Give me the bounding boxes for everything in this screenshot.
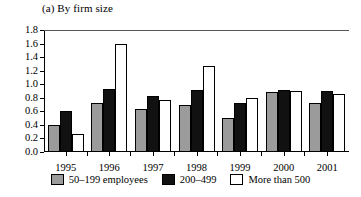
y-axis-tick-label: 0.6 <box>25 104 38 117</box>
bar[interactable] <box>203 66 215 152</box>
x-axis-tick-label: 1997 <box>142 162 163 173</box>
bar[interactable] <box>135 109 147 152</box>
x-axis-tick-mark <box>109 152 110 156</box>
bar[interactable] <box>191 90 203 152</box>
x-axis-tick-mark <box>284 152 285 156</box>
bar[interactable] <box>179 105 191 152</box>
y-axis-tick-label: 1.4 <box>25 50 38 63</box>
bar[interactable] <box>147 96 159 152</box>
y-axis-tick-label: 0.2 <box>25 131 38 144</box>
x-axis-tick-label: 2001 <box>317 162 338 173</box>
plot-area: 0.00.20.40.60.81.01.21.41.61.8 199519961… <box>44 30 349 152</box>
bar[interactable] <box>333 94 345 152</box>
x-axis-tick-mark <box>197 152 198 156</box>
bar-group: 1995 <box>44 30 88 152</box>
x-axis-tick-mark <box>153 152 154 156</box>
bar-groups: 1995199619971998199920002001 <box>44 30 349 152</box>
bar-group: 2000 <box>262 30 306 152</box>
bar-group: 1997 <box>131 30 175 152</box>
bar[interactable] <box>278 90 290 152</box>
bar[interactable] <box>72 134 84 152</box>
legend-item[interactable]: 200–499 <box>162 174 217 185</box>
bar[interactable] <box>246 98 258 152</box>
x-axis-tick-mark <box>327 152 328 156</box>
x-axis-tick-mark <box>240 152 241 156</box>
x-axis-tick-mark <box>66 152 67 156</box>
legend-swatch <box>162 174 175 185</box>
y-axis-tick-label: 1.2 <box>25 64 38 77</box>
bar[interactable] <box>309 103 321 152</box>
x-axis-tick-label: 1999 <box>230 162 251 173</box>
bar-group: 1999 <box>218 30 262 152</box>
chart-title: (a) By firm size <box>42 2 113 14</box>
x-axis-group-separator <box>261 152 262 156</box>
legend-swatch <box>230 174 243 185</box>
x-axis-tick-label: 1998 <box>186 162 207 173</box>
x-axis-group-separator <box>130 152 131 156</box>
bar[interactable] <box>290 91 302 152</box>
bar[interactable] <box>159 100 171 152</box>
legend-item[interactable]: 50–199 employees <box>51 174 148 185</box>
bar[interactable] <box>321 91 333 152</box>
bar[interactable] <box>91 103 103 152</box>
x-axis-tick-label: 1995 <box>55 162 76 173</box>
y-axis-tick-label: 0.4 <box>25 118 38 131</box>
legend-label: 200–499 <box>180 174 217 185</box>
y-axis-tick-label: 0.0 <box>25 145 38 158</box>
bar[interactable] <box>103 89 115 152</box>
bar-group: 1996 <box>88 30 132 152</box>
chart-figure: (a) By firm size 0.00.20.40.60.81.01.21.… <box>0 0 361 197</box>
y-axis-tick-label: 1.6 <box>25 37 38 50</box>
bar[interactable] <box>115 44 127 152</box>
bar[interactable] <box>48 125 60 152</box>
x-axis-tick-label: 1996 <box>99 162 120 173</box>
legend-item[interactable]: More than 500 <box>230 174 310 185</box>
x-axis-group-separator <box>87 152 88 156</box>
y-axis-tick-label: 1.8 <box>25 23 38 36</box>
legend-swatch <box>51 174 64 185</box>
x-axis-tick-label: 2000 <box>273 162 294 173</box>
y-axis-tick-label: 0.8 <box>25 91 38 104</box>
chart-legend: 50–199 employees200–499More than 500 <box>0 174 361 185</box>
legend-label: 50–199 employees <box>69 174 148 185</box>
y-axis-tick-label: 1.0 <box>25 77 38 90</box>
x-axis-group-separator <box>217 152 218 156</box>
bar[interactable] <box>60 111 72 152</box>
x-axis-group-separator <box>174 152 175 156</box>
x-axis-group-separator <box>304 152 305 156</box>
y-axis-tick-mark <box>40 152 44 153</box>
legend-label: More than 500 <box>248 174 310 185</box>
bar-group: 2001 <box>305 30 349 152</box>
bar[interactable] <box>222 118 234 152</box>
bar-group: 1998 <box>175 30 219 152</box>
bar[interactable] <box>234 103 246 152</box>
bar[interactable] <box>266 92 278 152</box>
